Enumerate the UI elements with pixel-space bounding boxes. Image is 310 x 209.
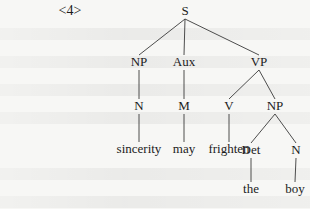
tree-edge [295, 158, 296, 182]
tree-edge [259, 70, 275, 99]
tree-node-vp: VP [251, 54, 268, 69]
tree-edge [229, 70, 259, 99]
tree-node-det: Det [242, 142, 261, 157]
tree-leaf-word: may [173, 141, 196, 156]
tree-node-s: S [181, 3, 188, 18]
tree-edge [139, 19, 185, 55]
tree-node-v: V [224, 98, 234, 113]
tree-node-n: N [291, 142, 301, 157]
example-number-label: <4> [59, 3, 82, 18]
tree-node-np: NP [267, 98, 284, 113]
tree-edge [185, 19, 259, 55]
tree-node-aux: Aux [173, 54, 196, 69]
tree-node-n: N [134, 98, 144, 113]
tree-node-np: NP [131, 54, 148, 69]
tree-edge [251, 114, 275, 143]
tree-nodes: <4> SNPAuxVPNMVNPsinceritymayfrightenDet… [59, 3, 306, 196]
tree-edge [275, 114, 296, 143]
tree-edge [184, 19, 185, 55]
tree-leaf-word: boy [285, 181, 305, 196]
tree-node-m: M [178, 98, 190, 113]
tree-leaf-word: sincerity [117, 141, 162, 156]
tree-leaf-word: the [243, 181, 259, 196]
syntax-tree: <4> SNPAuxVPNMVNPsinceritymayfrightenDet… [0, 0, 310, 209]
